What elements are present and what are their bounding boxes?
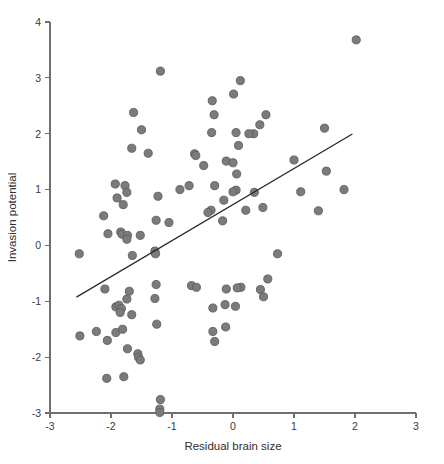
data-point [234, 141, 242, 149]
data-point [245, 130, 253, 138]
data-point [229, 159, 237, 167]
x-tick-label: -3 [45, 420, 54, 432]
data-point [103, 374, 111, 382]
data-point [297, 188, 305, 196]
data-point [100, 212, 108, 220]
data-point [101, 285, 109, 293]
data-point [156, 396, 164, 404]
data-point [259, 293, 267, 301]
data-point [123, 295, 131, 303]
data-point [137, 126, 145, 134]
data-point [233, 170, 241, 178]
y-tick-label: 4 [35, 16, 41, 28]
data-point [236, 77, 244, 85]
data-point [320, 124, 328, 132]
data-point [352, 36, 360, 44]
x-tick-label: 0 [230, 420, 236, 432]
x-tick-label: -1 [167, 420, 176, 432]
data-point [113, 194, 121, 202]
y-tick-label: -2 [32, 351, 41, 363]
data-point [209, 304, 217, 312]
data-point [92, 327, 100, 335]
data-point [156, 408, 164, 416]
data-point [208, 97, 216, 105]
data-point [123, 188, 131, 196]
data-point [314, 207, 322, 215]
data-point [259, 203, 267, 211]
data-point [154, 192, 162, 200]
x-tick-label: -2 [106, 420, 115, 432]
data-point [136, 356, 144, 364]
y-tick-label: -3 [32, 407, 41, 419]
data-point [192, 151, 200, 159]
data-point [229, 188, 237, 196]
data-point [256, 121, 264, 129]
y-tick-label: 2 [35, 128, 41, 140]
data-point [185, 182, 193, 190]
data-point [75, 250, 83, 258]
data-points-layer [75, 36, 360, 417]
data-point [221, 301, 229, 309]
data-point [219, 217, 227, 225]
data-point [104, 230, 112, 238]
trend-line-layer [77, 134, 352, 297]
data-point [165, 218, 173, 226]
data-point [232, 129, 240, 137]
data-point [322, 167, 330, 175]
regression-trend-line [77, 134, 352, 297]
data-point [210, 111, 218, 119]
data-point [262, 111, 270, 119]
x-tick-label: 3 [413, 420, 419, 432]
data-point [111, 180, 119, 188]
data-point [123, 345, 131, 353]
data-point [136, 231, 144, 239]
data-point [208, 129, 216, 137]
axis-ticks-layer [45, 22, 416, 418]
data-point [230, 90, 238, 98]
data-point [242, 206, 250, 214]
data-point [233, 284, 241, 292]
plot-canvas: -3-2-10123-3-2-101234 Residual brain siz… [0, 0, 444, 464]
data-point [176, 186, 184, 194]
y-tick-label: 3 [35, 72, 41, 84]
y-tick-label: -1 [32, 295, 41, 307]
data-point [204, 208, 212, 216]
data-point [209, 327, 217, 335]
data-point [211, 337, 219, 345]
data-point [152, 216, 160, 224]
y-tick-label: 0 [35, 239, 41, 251]
data-point [153, 320, 161, 328]
data-point [120, 373, 128, 381]
data-point [340, 186, 348, 194]
data-point [156, 67, 164, 75]
data-point [222, 323, 230, 331]
x-tick-label: 1 [291, 420, 297, 432]
data-point [222, 285, 230, 293]
data-point [76, 332, 84, 340]
data-point [200, 162, 208, 170]
data-point [119, 325, 127, 333]
data-point [128, 311, 136, 319]
data-point [231, 302, 239, 310]
x-tick-label: 2 [352, 420, 358, 432]
data-point [220, 196, 228, 204]
data-point [192, 283, 200, 291]
data-point [290, 156, 298, 164]
data-point [128, 251, 136, 259]
scatter-plot-figure: -3-2-10123-3-2-101234 Residual brain siz… [0, 0, 444, 464]
data-point [211, 182, 219, 190]
y-tick-label: 1 [35, 183, 41, 195]
data-point [144, 149, 152, 157]
data-point [264, 275, 272, 283]
data-point [125, 287, 133, 295]
data-point [116, 308, 124, 316]
data-point [151, 294, 159, 302]
data-point [103, 336, 111, 344]
data-point [152, 280, 160, 288]
y-axis-title: Invasion potential [6, 173, 18, 263]
data-point [130, 108, 138, 116]
data-point [119, 201, 127, 209]
data-point [273, 250, 281, 258]
data-point [128, 144, 136, 152]
data-point [123, 235, 131, 243]
